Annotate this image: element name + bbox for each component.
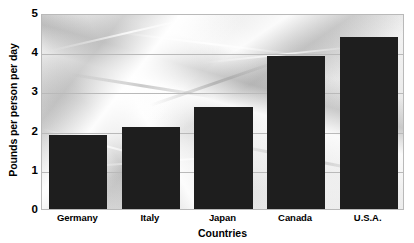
x-tick-label: Canada	[259, 212, 332, 223]
y-tick-label: 4	[16, 47, 38, 59]
y-tick-label: 3	[16, 87, 38, 99]
y-axis-tick-labels: 012345	[16, 0, 38, 243]
x-tick-label: Italy	[114, 212, 187, 223]
bar	[267, 56, 325, 209]
x-tick-label: Germany	[41, 212, 114, 223]
y-tick-label: 5	[16, 8, 38, 20]
bar-chart: Pounds per person per day 012345 Germany…	[0, 0, 414, 243]
bar	[122, 127, 180, 209]
bar	[49, 135, 107, 209]
plot-area	[41, 14, 404, 210]
x-axis-title: Countries	[41, 227, 404, 239]
x-tick-label: Japan	[186, 212, 259, 223]
bar	[194, 107, 252, 209]
x-tick-label: U.S.A.	[331, 212, 404, 223]
bars	[42, 15, 403, 209]
y-tick-label: 2	[16, 126, 38, 138]
y-tick-label: 0	[16, 204, 38, 216]
bar	[340, 37, 398, 209]
x-axis-tick-labels: GermanyItalyJapanCanadaU.S.A.	[41, 212, 404, 228]
y-tick-label: 1	[16, 165, 38, 177]
